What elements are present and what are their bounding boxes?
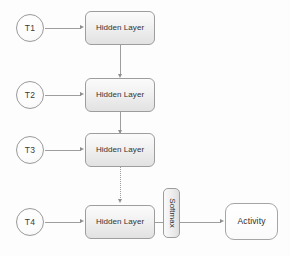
- softmax-label: Softmax: [168, 198, 176, 227]
- time-step-label-t2: T2: [25, 91, 35, 100]
- time-step-node-t2[interactable]: T2: [16, 81, 44, 109]
- time-step-node-t3[interactable]: T3: [16, 136, 44, 164]
- arrowhead-t4-to-hidden-4: [80, 219, 84, 223]
- hidden-layer-box-3[interactable]: Hidden Layer: [85, 133, 155, 167]
- hidden-layer-box-2[interactable]: Hidden Layer: [85, 78, 155, 112]
- hidden-layer-label-1: Hidden Layer: [96, 24, 144, 32]
- hidden-layer-label-2: Hidden Layer: [96, 91, 144, 99]
- connector-softmax-to-activity: [180, 222, 221, 223]
- connector-t2-to-hidden-2: [45, 95, 81, 96]
- time-step-label-t3: T3: [25, 146, 35, 155]
- activity-output-box[interactable]: Activity: [225, 203, 278, 240]
- arrowhead-softmax-to-activity: [220, 219, 224, 223]
- arrowhead-t1-to-hidden-1: [80, 25, 84, 29]
- time-step-node-t4[interactable]: T4: [16, 208, 44, 236]
- connector-hidden-1-to-hidden-2: [120, 45, 121, 76]
- softmax-box[interactable]: Softmax: [163, 188, 180, 238]
- connector-t4-to-hidden-4: [45, 222, 81, 223]
- hidden-layer-label-4: Hidden Layer: [96, 218, 144, 226]
- activity-output-label: Activity: [237, 217, 265, 226]
- time-step-label-t1: T1: [25, 24, 35, 33]
- connector-t3-to-hidden-3: [45, 150, 81, 151]
- arrowhead-hidden-3-to-hidden-4: [118, 199, 122, 203]
- connector-t1-to-hidden-1: [45, 28, 81, 29]
- diagram-canvas: T1 Hidden Layer T2 Hidden Layer T3 Hidde…: [0, 0, 290, 256]
- arrowhead-t3-to-hidden-3: [80, 147, 84, 151]
- hidden-layer-box-1[interactable]: Hidden Layer: [85, 11, 155, 45]
- arrowhead-t2-to-hidden-2: [80, 92, 84, 96]
- time-step-node-t1[interactable]: T1: [16, 14, 44, 42]
- hidden-layer-label-3: Hidden Layer: [96, 146, 144, 154]
- hidden-layer-box-4[interactable]: Hidden Layer: [85, 205, 155, 239]
- connector-hidden-3-to-hidden-4-dotted: [120, 167, 121, 200]
- time-step-label-t4: T4: [25, 218, 35, 227]
